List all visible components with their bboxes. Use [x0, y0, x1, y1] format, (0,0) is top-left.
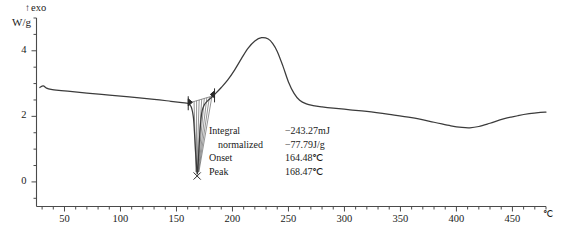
- x-axis-ticks: [42, 207, 546, 212]
- x-tick-label: 50: [46, 213, 82, 224]
- annotation-row: normalized−77.79J/g: [209, 138, 330, 152]
- y-tick-label: 0: [13, 175, 27, 186]
- annotation-label: normalized: [209, 138, 285, 152]
- annotation-value: −243.27mJ: [285, 124, 330, 138]
- x-tick-label: 250: [270, 213, 306, 224]
- dsc-thermogram-chart: [0, 0, 563, 231]
- annotation-value: 168.47℃: [285, 165, 330, 179]
- x-tick-label: 300: [326, 213, 362, 224]
- x-tick-label: 100: [102, 213, 138, 224]
- x-axis-unit-label: ℃: [543, 209, 553, 219]
- y-axis-ticks: [32, 18, 37, 198]
- annotation-value: 164.48℃: [285, 151, 330, 165]
- y-tick-label: 2: [13, 109, 27, 120]
- x-tick-label: 150: [158, 213, 194, 224]
- measurement-annotation: Integral−243.27mJnormalized−77.79J/gOnse…: [209, 124, 330, 178]
- annotation-row: Peak168.47℃: [209, 165, 330, 179]
- annotation-table: Integral−243.27mJnormalized−77.79J/gOnse…: [209, 124, 330, 178]
- x-tick-label: 200: [214, 213, 250, 224]
- annotation-row: Onset164.48℃: [209, 151, 330, 165]
- x-tick-label: 400: [438, 213, 474, 224]
- exo-up-arrow-icon: ↑: [25, 3, 30, 13]
- annotation-value: −77.79J/g: [285, 138, 330, 152]
- annotation-label: Peak: [209, 165, 285, 179]
- annotation-row: Integral−243.27mJ: [209, 124, 330, 138]
- exo-label: exo: [31, 2, 46, 13]
- x-tick-label: 350: [382, 213, 418, 224]
- x-tick-label: 450: [494, 213, 530, 224]
- annotation-label: Integral: [209, 124, 285, 138]
- y-axis-label: W/g: [12, 16, 31, 28]
- annotation-label: Onset: [209, 151, 285, 165]
- y-tick-label: 4: [13, 44, 27, 55]
